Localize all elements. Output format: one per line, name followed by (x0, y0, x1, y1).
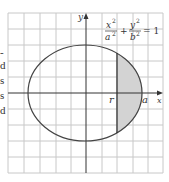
svg-text:2: 2 (112, 17, 116, 24)
svg-text:x: x (106, 20, 111, 30)
ellipse-equation: x 2 a 2 + y 2 b 2 = 1 (105, 17, 159, 42)
a-label: a (142, 94, 148, 105)
svg-text:= 1: = 1 (143, 26, 159, 36)
svg-text:y: y (129, 20, 136, 30)
svg-text:+: + (120, 26, 128, 36)
x-axis-label: x (157, 96, 162, 105)
svg-text:2: 2 (136, 17, 140, 24)
svg-text:2: 2 (112, 30, 116, 37)
svg-text:2: 2 (136, 30, 140, 37)
y-axis-arrow-icon (84, 13, 89, 19)
svg-text:a: a (105, 32, 110, 42)
ellipse-diagram: y x r a x 2 a 2 + y 2 b 2 = 1 (0, 0, 169, 182)
y-axis-label: y (77, 12, 84, 22)
x-axis-arrow-icon (157, 91, 163, 96)
r-label: r (109, 94, 115, 105)
